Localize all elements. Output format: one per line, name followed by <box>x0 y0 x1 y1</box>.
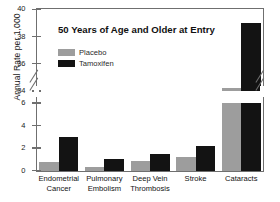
bar-endometrial-cancer-placebo <box>39 162 59 170</box>
chart-title: 50 Years of Age and Older at Entry <box>58 24 215 35</box>
y-tick-label-4: 4 <box>21 122 25 130</box>
x-label-line: Cataracts <box>212 174 270 184</box>
y-tick-label-38: 38 <box>17 33 25 41</box>
bar-cataracts-tamoxifen-upper <box>241 23 261 91</box>
y-tick-4: 4 <box>32 125 41 126</box>
x-label-line: Thrombosis <box>121 184 179 194</box>
chart-figure: Annual Rate per 1,000 024634363840 50 Ye… <box>0 0 280 202</box>
legend-label-tamoxifen: Tamoxifen <box>79 60 114 68</box>
lower-panel-bars <box>36 103 264 171</box>
y-tick-label-2: 2 <box>21 144 25 152</box>
y-tick-label-36: 36 <box>17 60 25 68</box>
legend-label-placebo: Placebo <box>79 49 106 57</box>
x-axis-category-labels: EndometrialCancerPulmonaryEmbolismDeep V… <box>36 174 264 202</box>
plot-area: 024634363840 50 Years of Age and Older a… <box>36 8 264 172</box>
axis-break-mask-left <box>34 86 39 97</box>
bar-cataracts-placebo-upper <box>222 88 242 91</box>
bar-deep-vein-thrombosis-placebo <box>131 161 151 171</box>
bar-stroke-tamoxifen <box>196 146 216 171</box>
y-tick-38: 38 <box>32 36 41 37</box>
legend-swatch-placebo <box>58 49 75 56</box>
bar-cataracts-tamoxifen <box>241 103 261 171</box>
bar-deep-vein-thrombosis-tamoxifen <box>150 154 170 171</box>
x-label-cataracts: Cataracts <box>212 174 270 184</box>
legend-item-tamoxifen: Tamoxifen <box>58 59 114 68</box>
bar-pulmonary-embolism-placebo <box>85 167 105 170</box>
bar-endometrial-cancer-tamoxifen <box>59 137 79 171</box>
y-tick-40: 40 <box>32 9 41 10</box>
axis-break-mask-right <box>260 86 265 97</box>
chart-legend: Placebo Tamoxifen <box>58 48 114 70</box>
y-tick-label-40: 40 <box>17 6 25 14</box>
y-tick-0: 0 <box>32 170 41 171</box>
legend-swatch-tamoxifen <box>58 60 75 67</box>
bar-stroke-placebo <box>176 157 196 171</box>
bar-cataracts-placebo <box>222 103 242 171</box>
x-axis-line <box>36 171 264 172</box>
y-tick-label-34: 34 <box>17 87 25 95</box>
legend-item-placebo: Placebo <box>58 48 114 57</box>
y-tick-2: 2 <box>32 147 41 148</box>
bar-pulmonary-embolism-tamoxifen <box>104 159 124 170</box>
y-tick-label-0: 0 <box>21 167 25 175</box>
y-tick-36: 36 <box>32 63 41 64</box>
y-tick-6: 6 <box>32 102 41 103</box>
y-tick-label-6: 6 <box>21 99 25 107</box>
